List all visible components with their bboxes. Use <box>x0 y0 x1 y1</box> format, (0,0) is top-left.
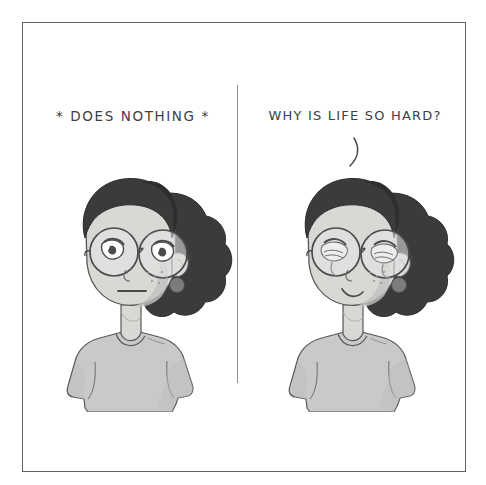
neck-right <box>343 304 363 341</box>
character-left <box>22 142 244 412</box>
earring-left <box>170 278 185 293</box>
earring-right <box>392 278 407 293</box>
torso-right <box>289 332 415 412</box>
caption-right: WHY IS LIFE SO HARD? <box>244 108 466 123</box>
panel-right: WHY IS LIFE SO HARD? <box>244 22 466 472</box>
neck-left <box>121 304 141 341</box>
character-right <box>244 142 466 412</box>
torso-left <box>67 332 193 412</box>
comic-image: * DOES NOTHING * <box>0 0 486 485</box>
panel-left: * DOES NOTHING * <box>22 22 244 472</box>
caption-left: * DOES NOTHING * <box>22 108 244 124</box>
